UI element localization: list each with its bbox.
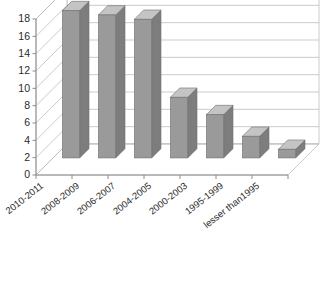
y-axis-tick-label: 18 [18,12,30,24]
bar [206,105,233,158]
x-axis-ticks [36,175,288,179]
x-axis-tick-label: 2000-2003 [147,180,190,217]
y-axis-tick-label: 0 [24,168,30,180]
x-axis-tick-label: 2006-2007 [75,180,118,217]
bar-side-face [80,1,89,158]
bar [170,88,197,158]
bar-front-face [242,136,259,158]
chart-canvas: 1816141210864202010-20112008-20092006-20… [0,0,323,286]
y-axis-ticks: 181614121086420 [18,12,36,180]
x-axis-labels: 2010-20112008-20092006-20072004-20052000… [3,180,261,230]
bar-front-face [206,115,223,158]
bar [62,1,89,158]
y-axis-tick-label: 2 [24,151,30,163]
bar-front-face [98,15,115,158]
bar [134,10,161,158]
y-axis-tick-label: 8 [24,99,30,111]
y-axis-tick-label: 14 [18,47,30,59]
y-axis-tick-label: 4 [24,134,30,146]
x-axis-tick-label: 2008-2009 [39,180,82,217]
bar-front-face [134,19,151,158]
y-axis-tick-label: 6 [24,116,30,128]
x-axis-tick-label: 2010-2011 [3,180,45,216]
bar [98,6,125,158]
bar-front-face [278,149,295,158]
bar-side-face [188,88,197,158]
bar-side-face [116,6,125,158]
y-axis-tick-label: 12 [18,64,30,76]
y-axis-tick-label: 10 [18,82,30,94]
bar-front-face [62,11,79,158]
bar-chart: 1816141210864202010-20112008-20092006-20… [0,0,323,286]
x-axis-tick-label: 2004-2005 [111,180,154,217]
bar-front-face [170,97,187,158]
bar-side-face [152,10,161,158]
y-axis-tick-label: 16 [18,30,30,42]
